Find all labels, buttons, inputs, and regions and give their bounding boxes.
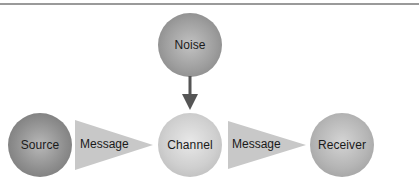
channel-node: Channel: [158, 113, 222, 177]
top-divider-line: [0, 3, 419, 5]
receiver-node: Receiver: [310, 113, 374, 177]
message-label-2: Message: [232, 137, 281, 151]
message-connector-1: Message: [75, 118, 155, 172]
noise-label: Noise: [174, 38, 205, 52]
message-connector-2: Message: [228, 120, 308, 170]
receiver-label: Receiver: [318, 138, 366, 152]
down-arrow-icon: [180, 76, 200, 112]
source-label: Source: [21, 138, 60, 152]
noise-node: Noise: [158, 13, 222, 77]
source-node: Source: [8, 113, 72, 177]
channel-label: Channel: [167, 138, 212, 152]
message-label-1: Message: [80, 137, 129, 151]
